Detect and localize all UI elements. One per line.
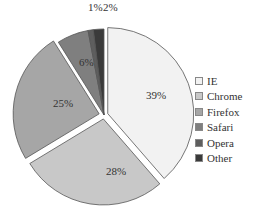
legend-swatch (195, 108, 203, 116)
legend-item-safari: Safari (195, 120, 242, 136)
slice-label: 25% (53, 97, 73, 109)
chart-legend: IE Chrome Firefox Safari Opera Other (195, 73, 242, 166)
legend-swatch (195, 92, 203, 100)
slice-label: 28% (106, 165, 126, 177)
legend-swatch (195, 77, 203, 85)
legend-label: Other (207, 152, 232, 164)
legend-label: Chrome (207, 90, 242, 102)
legend-item-other: Other (195, 151, 242, 167)
slice-label: 6% (79, 56, 94, 68)
legend-label: Opera (207, 137, 234, 149)
slice-label: 2% (103, 1, 118, 13)
legend-label: IE (207, 75, 217, 87)
legend-swatch (195, 139, 203, 147)
slice-label: 1% (88, 1, 103, 13)
legend-item-firefox: Firefox (195, 104, 242, 120)
legend-label: Safari (207, 121, 233, 133)
slice-label: 39% (146, 89, 166, 101)
legend-label: Firefox (207, 106, 239, 118)
legend-item-chrome: Chrome (195, 89, 242, 105)
legend-swatch (195, 123, 203, 131)
legend-swatch (195, 154, 203, 162)
legend-item-ie: IE (195, 73, 242, 89)
legend-item-opera: Opera (195, 135, 242, 151)
